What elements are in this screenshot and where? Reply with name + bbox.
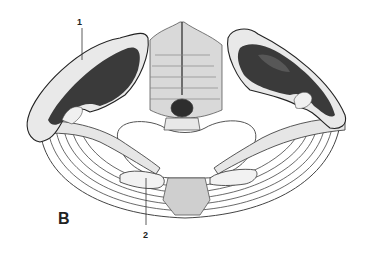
anatomical-illustration	[0, 0, 368, 260]
sternum-manubrium	[163, 178, 210, 215]
scapula-right	[228, 29, 346, 128]
callout-label-1: 1	[77, 17, 82, 27]
vertebral-column	[150, 22, 222, 130]
callout-label-2: 2	[143, 230, 148, 240]
panel-label: B	[58, 210, 70, 228]
